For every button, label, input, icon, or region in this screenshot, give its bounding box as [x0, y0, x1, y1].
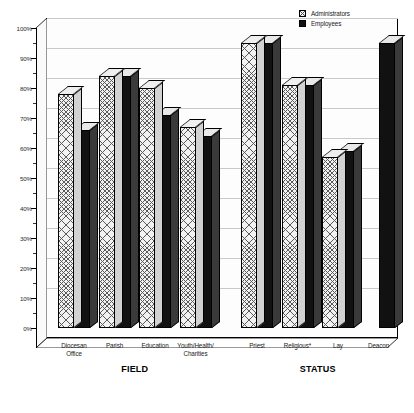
bar-front-face: [58, 94, 74, 328]
bar-side-face: [395, 37, 403, 328]
y-tick-label: 60%: [2, 145, 32, 152]
x-axis-label-line: Youth/Health/: [170, 342, 222, 350]
bar-administrators: [58, 94, 74, 328]
bar-front-face: [322, 157, 338, 328]
x-axis-label-line: Office: [48, 350, 100, 358]
group-label-field: FIELD: [95, 364, 175, 374]
bar-side-face: [115, 70, 123, 328]
y-tick-label: 0%: [2, 325, 32, 332]
bar-side-face: [155, 82, 163, 328]
bar-chart: 0%10%20%30%40%50%60%70%80%90%100% Dioces…: [0, 0, 414, 413]
legend-swatch-employees: [299, 20, 306, 27]
y-tick-label: 70%: [2, 115, 32, 122]
bar-side-face: [212, 130, 220, 328]
bar-employees: [379, 43, 395, 328]
y-tick-label: 40%: [2, 205, 32, 212]
bar-administrators: [282, 85, 298, 328]
legend-item-administrators: Administrators: [299, 8, 403, 18]
bars-layer: [36, 18, 398, 348]
x-axis-label-line: Charities: [170, 350, 222, 358]
y-tick-label: 50%: [2, 175, 32, 182]
bar-front-face: [282, 85, 298, 328]
bar-front-face: [180, 127, 196, 328]
bar-side-face: [273, 37, 281, 328]
bar-administrators: [241, 43, 257, 328]
group-label-status: STATUS: [278, 364, 358, 374]
y-tick-label: 90%: [2, 55, 32, 62]
legend-label-administrators: Administrators: [311, 10, 350, 17]
y-tick-label: 80%: [2, 85, 32, 92]
bar-administrators: [99, 76, 115, 328]
bar-side-face: [90, 124, 98, 328]
bar-side-face: [257, 37, 265, 328]
bar-side-face: [338, 151, 346, 328]
bar-administrators: [139, 88, 155, 328]
legend-item-employees: Employees: [299, 18, 403, 28]
bar-side-face: [171, 109, 179, 328]
x-axis-label: Deacon: [353, 342, 405, 350]
y-tick-label: 30%: [2, 235, 32, 242]
bar-side-face: [196, 121, 204, 328]
chart-legend: Administrators Employees: [299, 8, 403, 28]
legend-label-employees: Employees: [311, 20, 341, 27]
x-axis-label: Youth/Health/Charities: [170, 342, 222, 357]
bar-front-face: [139, 88, 155, 328]
bar-side-face: [354, 145, 362, 328]
y-tick-label: 100%: [2, 25, 32, 32]
bar-side-face: [298, 79, 306, 328]
plot-area: 0%10%20%30%40%50%60%70%80%90%100%: [36, 18, 398, 348]
bar-front-face: [379, 43, 395, 328]
bar-side-face: [74, 88, 82, 328]
bar-administrators: [322, 157, 338, 328]
bar-front-face: [99, 76, 115, 328]
y-tick-label: 20%: [2, 265, 32, 272]
x-axis-label-line: Deacon: [353, 342, 405, 350]
bar-side-face: [131, 70, 139, 328]
legend-swatch-administrators: [299, 10, 306, 17]
bar-administrators: [180, 127, 196, 328]
y-tick-label: 10%: [2, 295, 32, 302]
bar-front-face: [241, 43, 257, 328]
bar-side-face: [314, 79, 322, 328]
